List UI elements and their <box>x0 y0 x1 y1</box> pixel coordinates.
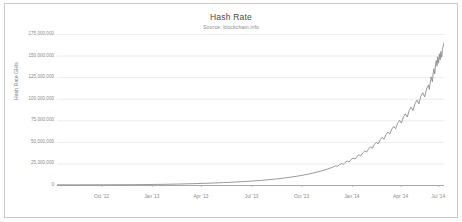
x-tick-label: Apr '14 <box>381 194 421 199</box>
x-tick-label: Jan '13 <box>132 194 172 199</box>
plot-area <box>57 34 444 185</box>
y-tick-label: 125,000,000 <box>12 74 54 79</box>
y-tick-label: 50,000,000 <box>12 139 54 144</box>
x-tick-label: Jan '14 <box>332 194 372 199</box>
hash-rate-chart: Hash Rate Source: blockchain.info Hash R… <box>0 0 462 222</box>
chart-title: Hash Rate <box>0 12 462 22</box>
chart-screenshot: Hash Rate Source: blockchain.info Hash R… <box>0 0 462 222</box>
y-tick-label: 25,000,000 <box>12 160 54 165</box>
x-tick-label: Jul '14 <box>418 194 458 199</box>
y-tick-label: 75,000,000 <box>12 117 54 122</box>
y-tick-label: 100,000,000 <box>12 96 54 101</box>
x-tick-label: Jul '13 <box>232 194 272 199</box>
chart-subtitle-source: Source: blockchain.info <box>0 24 462 30</box>
x-axis-tick-labels: Oct '12Jan '13Apr '13Jul '13Oct '13Jan '… <box>0 194 462 206</box>
x-tick-label: Apr '13 <box>181 194 221 199</box>
y-tick-label: 0 <box>12 182 54 187</box>
x-tick-label: Oct '13 <box>282 194 322 199</box>
y-axis-tick-labels: 025,000,00050,000,00075,000,000100,000,0… <box>12 0 54 222</box>
x-tick-label: Oct '12 <box>82 194 122 199</box>
y-tick-label: 175,000,000 <box>12 31 54 36</box>
chart-svg <box>57 34 444 187</box>
y-tick-label: 150,000,000 <box>12 53 54 58</box>
